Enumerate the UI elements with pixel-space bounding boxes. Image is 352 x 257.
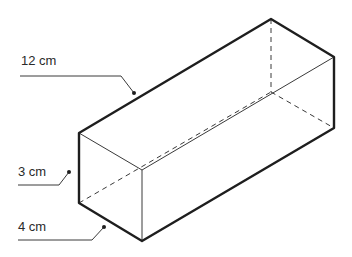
height-label: 3 cm xyxy=(18,165,46,178)
edge-front-top-width xyxy=(79,133,142,170)
interior-edges xyxy=(79,57,334,241)
leader-dot-width xyxy=(102,225,106,229)
leader-length xyxy=(20,76,136,95)
leader-dot-length xyxy=(132,91,136,95)
leader-line-length xyxy=(20,76,134,93)
cuboid-outline xyxy=(79,19,334,241)
hidden-edge-length xyxy=(79,92,271,203)
width-label: 4 cm xyxy=(18,220,46,233)
leader-dot-height xyxy=(67,170,71,174)
cuboid-diagram xyxy=(0,0,352,257)
edge-top-length xyxy=(142,57,334,170)
hidden-edge-width xyxy=(271,92,334,128)
length-label: 12 cm xyxy=(21,54,56,67)
